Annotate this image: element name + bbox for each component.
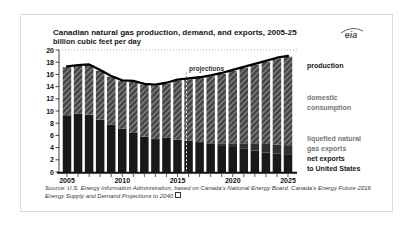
- bar-segment: [195, 142, 204, 172]
- bar-2010: [118, 81, 127, 172]
- bar-2012: [140, 85, 149, 172]
- bar-segment: [162, 138, 171, 172]
- bar-segment: [273, 154, 282, 172]
- y-tick-label: 2: [50, 156, 54, 163]
- bar-segment: [284, 155, 293, 172]
- bar-segment: [217, 143, 226, 145]
- y-tick-label: 14: [46, 83, 54, 90]
- x-tick-label: 2005: [59, 177, 75, 184]
- bar-segment: [107, 77, 116, 125]
- bar-segment: [173, 81, 182, 140]
- bar-segment: [262, 152, 271, 172]
- bar-segment: [251, 65, 260, 144]
- source-note: Source: U.S. Energy Information Administ…: [45, 184, 371, 200]
- external-link-icon[interactable]: [175, 192, 181, 198]
- y-tick-label: 20: [46, 47, 54, 54]
- bar-segment: [118, 129, 127, 172]
- bar-segment: [206, 143, 215, 172]
- bar-segment: [251, 151, 260, 172]
- bar-2006: [74, 66, 83, 172]
- annotation-domestic: domesticconsumption: [307, 93, 351, 112]
- bar-segment: [284, 57, 293, 145]
- eia-logo: eia: [337, 24, 367, 42]
- bar-segment: [96, 120, 105, 172]
- bar-segment: [184, 79, 193, 141]
- bar-2018: [206, 76, 215, 172]
- bar-segment: [229, 143, 238, 147]
- annotation-net-exports: net exportsto United States: [307, 154, 360, 173]
- bar-segment: [162, 84, 171, 138]
- bar-segment: [96, 71, 105, 120]
- bar-segment: [217, 74, 226, 144]
- y-tick-label: 0: [50, 169, 54, 176]
- bar-2020: [229, 71, 238, 172]
- bar-2005: [63, 67, 72, 172]
- y-tick-label: 8: [50, 120, 54, 127]
- bar-2015: [173, 81, 182, 173]
- bar-segment: [63, 115, 72, 172]
- bar-segment: [240, 143, 249, 148]
- bar-2007: [85, 65, 94, 172]
- bar-segment: [251, 143, 260, 150]
- bar-segment: [206, 76, 215, 143]
- y-tick-label: 12: [46, 95, 54, 102]
- bar-segment: [63, 67, 72, 115]
- bar-segment: [151, 139, 160, 172]
- bar-segment: [195, 78, 204, 142]
- bar-segment: [140, 85, 149, 137]
- bar-2016: [184, 79, 193, 172]
- bar-2019: [217, 74, 226, 172]
- annotation-production: production: [307, 61, 344, 71]
- bar-2023: [262, 62, 271, 172]
- bar-segment: [217, 145, 226, 172]
- bar-segment: [262, 144, 271, 153]
- y-tick-label: 10: [46, 108, 54, 115]
- bar-segment: [151, 85, 160, 139]
- eia-logo-text: eia: [345, 30, 358, 40]
- x-tick-label: 2025: [280, 177, 296, 184]
- bar-segment: [118, 81, 127, 129]
- bar-segment: [229, 71, 238, 144]
- bar-segment: [240, 149, 249, 172]
- bar-2021: [240, 68, 249, 172]
- y-tick-label: 18: [46, 59, 54, 66]
- bar-segment: [184, 141, 193, 172]
- bar-2024: [273, 59, 282, 172]
- y-tick-label: 16: [46, 71, 54, 78]
- source-text-line1: Source: U.S. Energy Information Administ…: [45, 185, 371, 191]
- bar-2011: [129, 82, 138, 172]
- y-tick-label: 6: [50, 132, 54, 139]
- bar-segment: [173, 140, 182, 172]
- chart-title: Canadian natural gas production, demand,…: [53, 28, 297, 37]
- bar-2022: [251, 65, 260, 172]
- projections-label: projections: [189, 65, 224, 73]
- bar-segment: [273, 59, 282, 145]
- bar-segment: [85, 115, 94, 172]
- source-report-link[interactable]: Energy Supply and Demand Projections to …: [45, 193, 173, 199]
- bar-segment: [284, 145, 293, 155]
- x-tick-label: 2015: [170, 177, 186, 184]
- bar-segment: [262, 62, 271, 144]
- bar-segment: [229, 147, 238, 172]
- bar-2008: [96, 71, 105, 172]
- bar-segment: [129, 133, 138, 172]
- bar-segment: [273, 145, 282, 154]
- y-tick-label: 4: [50, 144, 54, 151]
- bar-segment: [107, 124, 116, 172]
- annotation-liquefied-natural: liquefied naturalgas exports: [307, 134, 361, 153]
- bar-segment: [74, 66, 83, 114]
- chart-plot: 02468101214161820projections200520102015…: [21, 43, 301, 193]
- bar-2025: [284, 57, 293, 172]
- bar-segment: [129, 82, 138, 133]
- bar-segment: [140, 137, 149, 172]
- bar-2009: [107, 77, 116, 172]
- bar-2014: [162, 84, 171, 172]
- bar-segment: [85, 65, 94, 114]
- chart-card: Canadian natural gas production, demand,…: [20, 14, 393, 212]
- bar-segment: [74, 113, 83, 172]
- bar-2013: [151, 85, 160, 172]
- bar-segment: [240, 68, 249, 144]
- bar-2017: [195, 78, 204, 172]
- x-tick-label: 2010: [114, 177, 130, 184]
- screenshot-canvas: Canadian natural gas production, demand,…: [0, 0, 409, 225]
